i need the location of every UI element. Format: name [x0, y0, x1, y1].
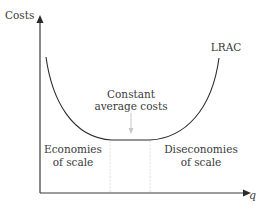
diseconomies-label-line1: Diseconomies [164, 143, 238, 155]
y-axis-arrow-icon [37, 15, 44, 23]
economies-label-line2: of scale [53, 156, 94, 168]
lrac-diagram: Costs q LRAC Constant average costs Econ… [0, 0, 261, 205]
x-axis-label: q [249, 189, 256, 202]
constant-costs-label-line2: average costs [94, 100, 167, 112]
curve-label: LRAC [211, 41, 242, 53]
constant-costs-label-line1: Constant [107, 88, 156, 100]
economies-label-line1: Economies [44, 143, 102, 155]
diseconomies-label-line2: of scale [181, 156, 222, 168]
pointer-arrow-icon [129, 128, 134, 134]
y-axis-label: Costs [5, 9, 34, 21]
